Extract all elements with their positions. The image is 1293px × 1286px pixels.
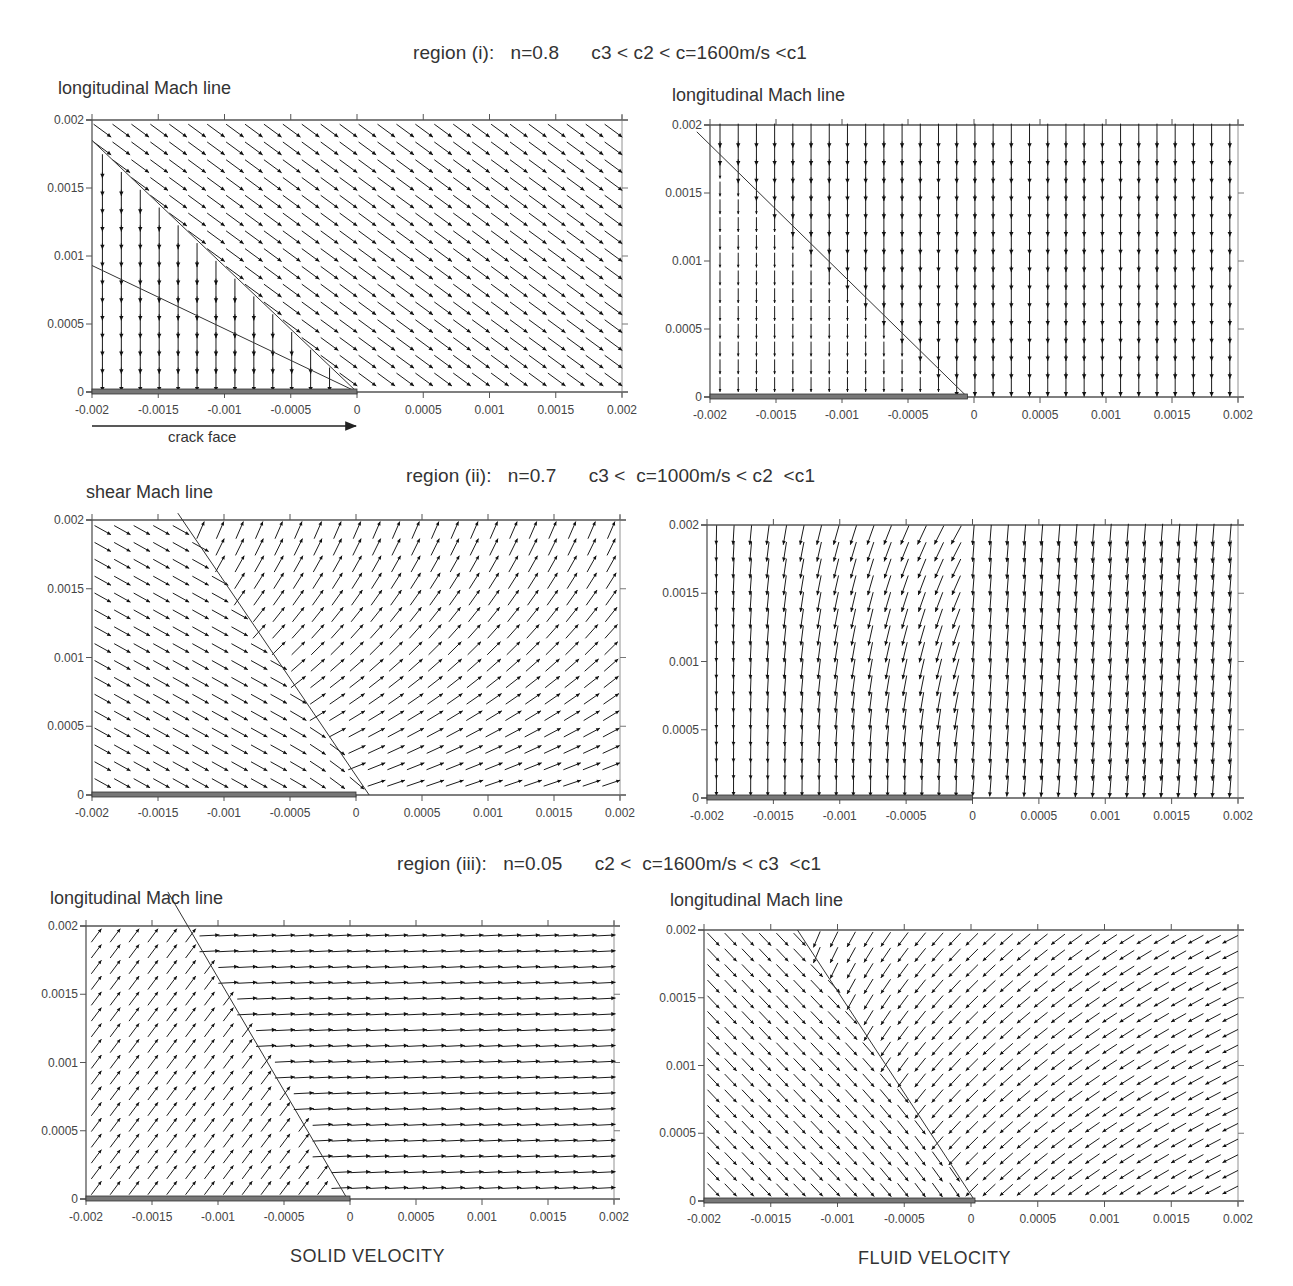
y-tick-label: 0.0015 — [47, 582, 84, 596]
x-tick-label: -0.0005 — [884, 1212, 925, 1226]
x-tick-label: -0.0005 — [888, 408, 929, 422]
y-tick-label: 0.002 — [672, 118, 702, 132]
x-tick-label: -0.002 — [75, 403, 109, 417]
quiver-plots: -0.002-0.0015-0.001-0.000500.00050.0010.… — [0, 0, 1293, 1286]
x-tick-label: 0.002 — [1223, 408, 1253, 422]
x-tick-label: 0 — [969, 809, 976, 823]
x-tick-label: -0.0005 — [270, 403, 311, 417]
x-tick-label: -0.0015 — [753, 809, 794, 823]
x-tick-label: 0.001 — [1090, 809, 1120, 823]
x-tick-label: 0.002 — [599, 1210, 629, 1224]
x-tick-label: 0.002 — [607, 403, 637, 417]
y-tick-label: 0.002 — [54, 513, 84, 527]
y-tick-label: 0.0015 — [662, 586, 699, 600]
y-tick-label: 0.0005 — [47, 317, 84, 331]
x-tick-label: 0.0005 — [1021, 809, 1058, 823]
x-tick-label: -0.0015 — [756, 408, 797, 422]
r2-solid-panel: -0.002-0.0015-0.001-0.000500.00050.0010.… — [47, 513, 635, 820]
y-tick-label: 0.0005 — [47, 719, 84, 733]
x-tick-label: 0.002 — [1223, 1212, 1253, 1226]
y-tick-label: 0 — [692, 791, 699, 805]
x-tick-label: -0.001 — [201, 1210, 235, 1224]
x-tick-label: 0.0015 — [1154, 408, 1191, 422]
y-tick-label: 0.0005 — [659, 1126, 696, 1140]
y-tick-label: 0.001 — [54, 249, 84, 263]
y-tick-label: 0.001 — [669, 655, 699, 669]
x-tick-label: -0.0005 — [886, 809, 927, 823]
x-tick-label: 0.001 — [1091, 408, 1121, 422]
y-tick-label: 0.0005 — [665, 322, 702, 336]
x-tick-label: 0.0005 — [1022, 408, 1059, 422]
crack-face-bar — [92, 792, 356, 797]
y-tick-label: 0.0015 — [659, 991, 696, 1005]
x-tick-label: 0 — [353, 806, 360, 820]
y-tick-label: 0.001 — [672, 254, 702, 268]
x-tick-label: -0.002 — [75, 806, 109, 820]
x-tick-label: -0.002 — [690, 809, 724, 823]
y-tick-label: 0 — [77, 385, 84, 399]
y-tick-label: 0 — [71, 1192, 78, 1206]
y-tick-label: 0.002 — [54, 113, 84, 127]
x-tick-label: -0.0015 — [138, 806, 179, 820]
x-tick-label: -0.001 — [207, 806, 241, 820]
crack-face-bar — [707, 795, 973, 800]
x-tick-label: 0 — [971, 408, 978, 422]
r2-fluid-panel: -0.002-0.0015-0.001-0.000500.00050.0010.… — [662, 518, 1253, 823]
r1-solid-panel: -0.002-0.0015-0.001-0.000500.00050.0010.… — [47, 113, 637, 417]
y-tick-label: 0.0015 — [47, 181, 84, 195]
y-tick-label: 0.0005 — [41, 1124, 78, 1138]
x-tick-label: 0.0015 — [537, 403, 574, 417]
y-tick-label: 0.001 — [54, 651, 84, 665]
r1-fluid-panel: -0.002-0.0015-0.001-0.000500.00050.0010.… — [665, 118, 1253, 422]
y-tick-label: 0 — [695, 390, 702, 404]
x-tick-label: 0.0015 — [1153, 1212, 1190, 1226]
x-tick-label: 0 — [354, 403, 361, 417]
y-tick-label: 0.0005 — [662, 723, 699, 737]
x-tick-label: 0.0015 — [1153, 809, 1190, 823]
x-tick-label: 0.002 — [1223, 809, 1253, 823]
x-tick-label: -0.001 — [820, 1212, 854, 1226]
x-tick-label: -0.001 — [825, 408, 859, 422]
x-tick-label: 0 — [347, 1210, 354, 1224]
x-tick-label: 0.0005 — [404, 806, 441, 820]
y-tick-label: 0.0015 — [665, 186, 702, 200]
r3-solid-panel: -0.002-0.0015-0.001-0.000500.00050.0010.… — [41, 892, 629, 1224]
x-tick-label: -0.0005 — [264, 1210, 305, 1224]
x-tick-label: 0.0015 — [536, 806, 573, 820]
r3-fluid-panel: -0.002-0.0015-0.001-0.000500.00050.0010.… — [659, 923, 1253, 1226]
x-tick-label: -0.001 — [823, 809, 857, 823]
x-tick-label: -0.0005 — [270, 806, 311, 820]
y-tick-label: 0.002 — [666, 923, 696, 937]
y-tick-label: 0.001 — [666, 1059, 696, 1073]
x-tick-label: -0.002 — [69, 1210, 103, 1224]
x-tick-label: 0.0005 — [1019, 1212, 1056, 1226]
y-tick-label: 0 — [689, 1194, 696, 1208]
crack-face-bar — [92, 389, 357, 394]
x-tick-label: 0.0015 — [530, 1210, 567, 1224]
x-tick-label: -0.0015 — [138, 403, 179, 417]
x-tick-label: 0.001 — [1089, 1212, 1119, 1226]
y-tick-label: 0.0015 — [41, 987, 78, 1001]
crack-face-bar — [86, 1196, 350, 1201]
x-tick-label: -0.0015 — [750, 1212, 791, 1226]
y-tick-label: 0.002 — [669, 518, 699, 532]
x-tick-label: 0 — [968, 1212, 975, 1226]
x-tick-label: -0.002 — [693, 408, 727, 422]
x-tick-label: 0.001 — [473, 806, 503, 820]
x-tick-label: -0.0015 — [132, 1210, 173, 1224]
crack-face-bar — [704, 1198, 975, 1203]
y-tick-label: 0 — [77, 788, 84, 802]
mach-line — [697, 132, 968, 397]
x-tick-label: 0.002 — [605, 806, 635, 820]
x-tick-label: 0.001 — [467, 1210, 497, 1224]
x-tick-label: 0.0005 — [405, 403, 442, 417]
crack-face-bar — [710, 394, 967, 399]
x-tick-label: -0.002 — [687, 1212, 721, 1226]
x-tick-label: -0.001 — [207, 403, 241, 417]
x-tick-label: 0.001 — [474, 403, 504, 417]
mach-line — [92, 140, 357, 392]
y-tick-label: 0.001 — [48, 1056, 78, 1070]
y-tick-label: 0.002 — [48, 919, 78, 933]
x-tick-label: 0.0005 — [398, 1210, 435, 1224]
